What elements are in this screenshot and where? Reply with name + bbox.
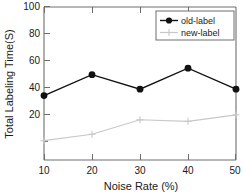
chart-container: 100 80 60 40 20 10 20 30 40 50 Noise Rat… (0, 0, 243, 194)
data-point-marker-circle-icon (185, 65, 192, 72)
data-point-marker-circle-icon (89, 71, 96, 78)
x-tick-labels: 10 20 30 40 50 (38, 165, 241, 176)
data-point-marker-plus-icon (137, 116, 144, 123)
series-markers-old-label (41, 65, 240, 99)
x-tick-label: 40 (182, 165, 194, 176)
data-point-marker-circle-icon (233, 86, 240, 93)
data-point-marker-plus-icon (233, 111, 240, 118)
legend: old-label new-label (156, 11, 234, 40)
y-tick-label: 20 (29, 109, 41, 120)
series-new-label (41, 111, 240, 144)
y-axis-title: Total Labeling Time(S) (3, 29, 15, 138)
y-tick-label: 100 (23, 1, 40, 12)
x-tick-label: 50 (229, 165, 241, 176)
series-markers-new-label (41, 111, 240, 144)
x-axis-title: Noise Rate (%) (104, 180, 179, 192)
y-tick-labels: 100 80 60 40 20 (23, 1, 40, 120)
data-point-marker-circle-icon (137, 86, 144, 93)
y-tick-label: 40 (29, 82, 41, 93)
x-tick-label: 10 (38, 165, 50, 176)
legend-marker-circle-icon (166, 17, 172, 23)
legend-label-old-label: old-label (181, 16, 215, 26)
line-chart: 100 80 60 40 20 10 20 30 40 50 Noise Rat… (0, 0, 243, 194)
data-point-marker-plus-icon (41, 137, 48, 144)
data-point-marker-plus-icon (185, 118, 192, 125)
data-point-marker-plus-icon (89, 131, 96, 138)
y-axis-ticks (44, 7, 50, 142)
y-tick-label: 60 (29, 55, 41, 66)
series-old-label (41, 65, 240, 99)
x-tick-label: 30 (134, 165, 146, 176)
y-tick-label: 80 (29, 28, 41, 39)
data-point-marker-circle-icon (41, 92, 48, 99)
legend-label-new-label: new-label (181, 28, 220, 38)
x-tick-label: 20 (86, 165, 98, 176)
